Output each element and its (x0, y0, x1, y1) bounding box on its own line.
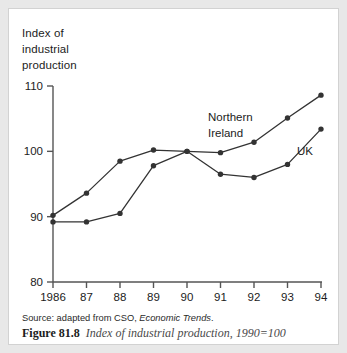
data-point-marker (251, 139, 256, 144)
x-tick-label-91: 91 (214, 291, 227, 303)
data-point-marker (151, 163, 156, 168)
series-line-0 (53, 95, 321, 215)
data-point-marker (218, 150, 223, 155)
x-tick-label-87: 87 (80, 291, 93, 303)
data-point-marker (117, 211, 122, 216)
figure-caption-text: Index of industrial production, 1990=100 (86, 326, 286, 340)
x-tick-label-88: 88 (114, 291, 127, 303)
source-prefix: Source: adapted from CSO, (22, 313, 139, 323)
y-tick-label-90: 90 (30, 211, 43, 223)
series-inline-labels: NorthernIrelandUK (208, 111, 313, 157)
data-point-marker (50, 219, 55, 224)
data-point-marker (151, 147, 156, 152)
data-point-marker (251, 175, 256, 180)
x-tick-label-92: 92 (248, 291, 261, 303)
x-tick-label-93: 93 (281, 291, 294, 303)
data-point-marker (318, 126, 323, 131)
caption-block: Source: adapted from CSO, Economic Trend… (22, 312, 327, 340)
data-point-marker (84, 219, 89, 224)
data-point-marker (50, 213, 55, 218)
data-point-marker (218, 172, 223, 177)
series-label-northern-ireland: Northern (208, 111, 253, 123)
x-tick-label-90: 90 (181, 291, 194, 303)
data-point-marker (117, 158, 122, 163)
series-label-uk: UK (297, 145, 313, 157)
data-point-marker (84, 190, 89, 195)
x-axis-tick-labels: 19868788899091929394 (40, 291, 328, 303)
source-line: Source: adapted from CSO, Economic Trend… (22, 312, 327, 324)
series-label-northern-ireland: Ireland (208, 127, 243, 139)
figure-panel: Index of industrial production 809010011… (8, 8, 339, 345)
series-line-1 (53, 129, 321, 222)
figure-number: Figure 81.8 (22, 326, 80, 340)
y-tick-label-100: 100 (24, 145, 43, 157)
y-axis-tick-marks (47, 86, 53, 282)
line-chart-plot: 8090100110 19868788899091929394 Northern… (9, 9, 340, 306)
x-axis-tick-marks (53, 282, 321, 288)
y-axis-tick-labels: 8090100110 (24, 80, 43, 288)
x-tick-label-94: 94 (315, 291, 328, 303)
series-markers-group (50, 92, 323, 224)
source-suffix: . (211, 313, 214, 323)
data-point-marker (285, 115, 290, 120)
x-tick-label-89: 89 (147, 291, 160, 303)
data-point-marker (184, 149, 189, 154)
figure-caption: Figure 81.8 Index of industrial producti… (22, 326, 327, 340)
source-publication: Economic Trends (139, 313, 211, 323)
chart-area: Index of industrial production 809010011… (9, 9, 340, 306)
x-tick-label-1986: 1986 (40, 291, 66, 303)
data-point-marker (285, 162, 290, 167)
y-tick-label-80: 80 (30, 276, 43, 288)
data-point-marker (318, 92, 323, 97)
y-tick-label-110: 110 (25, 80, 43, 92)
series-lines-group (53, 95, 321, 222)
